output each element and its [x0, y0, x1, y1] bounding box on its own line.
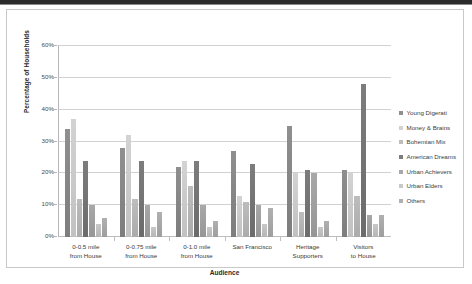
screenshot-root: 60%50%40%30%20%10%0% Percentage of House…: [0, 0, 472, 284]
legend-swatch-icon: [399, 184, 403, 188]
legend-swatch-icon: [399, 140, 403, 144]
bar: [293, 173, 298, 237]
x-axis-label-line: from House: [169, 252, 225, 261]
legend-item[interactable]: Young Digerati: [399, 106, 472, 121]
bar: [318, 227, 323, 237]
bar: [120, 148, 125, 237]
legend-swatch-icon: [399, 111, 403, 115]
bar: [200, 205, 205, 237]
bar: [243, 202, 248, 237]
bar: [71, 119, 76, 237]
legend-label: Money & Brains: [407, 125, 451, 131]
x-axis-title: Audience: [58, 269, 391, 276]
bar: [287, 126, 292, 237]
bar: [89, 205, 94, 237]
chart-frame: 60%50%40%30%20%10%0% Percentage of House…: [6, 9, 464, 268]
x-tick-separator: [114, 237, 115, 241]
bar: [237, 196, 242, 237]
bar: [379, 215, 384, 237]
legend-swatch-icon: [399, 126, 403, 130]
bar: [305, 170, 310, 237]
legend-item[interactable]: Urban Achievers: [399, 164, 472, 179]
legend-item[interactable]: American Dreams: [399, 150, 472, 165]
y-tick-label: 20%: [10, 169, 54, 175]
x-axis-label-line: from House: [114, 252, 170, 261]
bar: [83, 161, 88, 237]
x-tick-separator: [169, 237, 170, 241]
legend-label: Bohemian Mix: [407, 139, 446, 145]
bar: [311, 173, 316, 237]
y-tick-mark: [54, 172, 57, 173]
bar: [151, 227, 156, 237]
legend-swatch-icon: [399, 170, 403, 174]
x-axis-label: HeritageSupporters: [280, 243, 336, 269]
x-tick-separator: [336, 237, 337, 241]
x-axis-label: 0-0.75 milefrom House: [114, 243, 170, 269]
y-tick-label: 40%: [10, 106, 54, 112]
x-axis-label-line: Heritage: [280, 243, 336, 252]
bar: [361, 84, 366, 237]
y-tick-label: 30%: [10, 138, 54, 144]
y-tick-mark: [54, 45, 57, 46]
bar-clusters: [58, 45, 391, 237]
x-axis-label: 0-1.0 milefrom House: [169, 243, 225, 269]
y-tick-label: 50%: [10, 74, 54, 80]
bar: [139, 161, 144, 237]
bar: [250, 164, 255, 237]
legend-item[interactable]: Money & Brains: [399, 121, 472, 136]
x-axis-label-line: 0-1.0 mile: [169, 243, 225, 252]
bar: [96, 224, 101, 237]
x-tick-separator: [225, 237, 226, 241]
bar-cluster: [169, 45, 225, 237]
legend-label: Young Digerati: [407, 110, 447, 116]
x-tick-separator: [280, 237, 281, 241]
y-tick-label: 60%: [10, 42, 54, 48]
bar-cluster: [58, 45, 114, 237]
x-axis-label-line: to House: [336, 252, 392, 261]
y-tick-mark: [54, 236, 57, 237]
bar-cluster: [336, 45, 392, 237]
bar: [342, 170, 347, 237]
y-tick-mark: [54, 141, 57, 142]
bar: [188, 186, 193, 237]
bar: [145, 205, 150, 237]
bar: [231, 151, 236, 237]
bar: [194, 161, 199, 237]
bar: [268, 208, 273, 237]
bar-cluster: [280, 45, 336, 237]
bar: [324, 221, 329, 237]
bar: [65, 129, 70, 237]
x-axis-label: Visitorsto House: [336, 243, 392, 269]
bar: [354, 196, 359, 237]
legend-label: Urban Achievers: [407, 169, 452, 175]
chart-legend: Young DigeratiMoney & BrainsBohemian Mix…: [399, 106, 472, 208]
y-tick-label: 10%: [10, 201, 54, 207]
bar: [367, 215, 372, 237]
y-tick-mark: [54, 109, 57, 110]
x-axis-label-line: Supporters: [280, 252, 336, 261]
y-axis: 60%50%40%30%20%10%0%: [7, 45, 54, 237]
bar: [157, 212, 162, 237]
legend-item[interactable]: Urban Elders: [399, 179, 472, 194]
scan-top-rule-secondary: [0, 4, 472, 5]
bar: [132, 199, 137, 237]
legend-item[interactable]: Others: [399, 194, 472, 209]
legend-label: Urban Elders: [407, 183, 443, 189]
bar: [207, 227, 212, 237]
bar-cluster: [225, 45, 281, 237]
x-axis-label: 0-0.5 milefrom House: [58, 243, 114, 269]
y-tick-mark: [54, 77, 57, 78]
y-axis-title: Percentage of Households: [23, 0, 30, 147]
bar: [102, 218, 107, 237]
bar: [77, 199, 82, 237]
bar-cluster: [114, 45, 170, 237]
legend-swatch-icon: [399, 155, 403, 159]
bar: [373, 224, 378, 237]
bar: [256, 205, 261, 237]
x-axis-label-line: San Francisco: [225, 243, 281, 252]
legend-item[interactable]: Bohemian Mix: [399, 135, 472, 150]
bar: [126, 135, 131, 237]
x-axis-label-line: 0-0.75 mile: [114, 243, 170, 252]
bar: [176, 167, 181, 237]
legend-label: Others: [407, 198, 426, 204]
